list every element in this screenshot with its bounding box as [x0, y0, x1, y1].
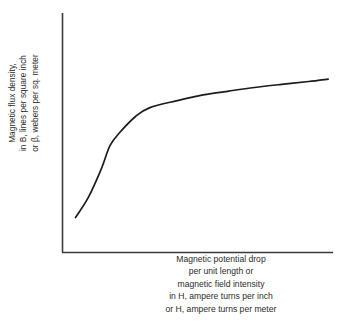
- x-axis-label-line-1: Magnetic potential drop: [128, 253, 314, 265]
- y-axis-label: Magnetic flux density, in B, lines per s…: [6, 36, 42, 171]
- y-axis-label-line-3: or β, webers per sq. meter: [29, 54, 41, 152]
- y-axis-label-line-2: in B, lines per square inch: [18, 55, 30, 151]
- x-axis-label-line-4: in H, ampere turns per inch: [128, 290, 314, 302]
- x-axis-label: Magnetic potential drop per unit length …: [128, 253, 314, 315]
- chart-figure: Magnetic flux density, in B, lines per s…: [0, 0, 346, 325]
- x-axis-label-line-2: per unit length or: [128, 265, 314, 277]
- x-axis-label-line-5: or H, ampere turns per meter: [128, 303, 314, 315]
- x-axis-label-line-3: magnetic field intensity: [128, 278, 314, 290]
- y-axis-label-line-1: Magnetic flux density,: [6, 63, 18, 143]
- magnetization-curve: [75, 79, 328, 217]
